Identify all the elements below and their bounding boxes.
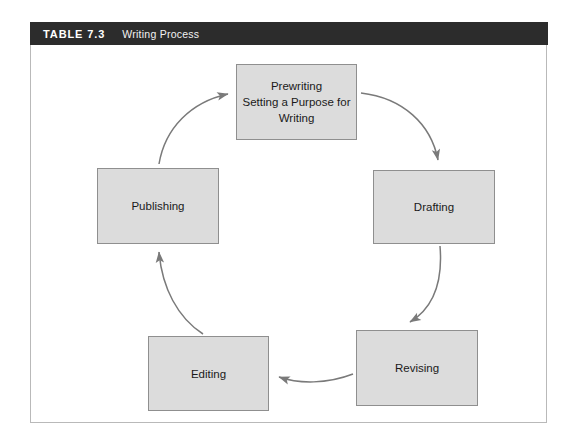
arrow-publishing-to-prewriting — [159, 94, 228, 164]
process-step-revising[interactable]: Revising — [356, 330, 478, 406]
process-step-label: Editing — [187, 366, 230, 382]
process-step-prewriting[interactable]: Prewriting Setting a Purpose for Writing — [236, 64, 357, 140]
arrow-drafting-to-revising — [410, 246, 441, 322]
process-step-label: Drafting — [410, 199, 458, 215]
figure-root: TABLE 7.3 Writing Process Prewriting Set… — [0, 0, 577, 446]
process-step-drafting[interactable]: Drafting — [373, 170, 495, 244]
process-step-label: Revising — [391, 360, 443, 376]
arrow-editing-to-publishing — [159, 252, 203, 334]
arrow-revising-to-editing — [279, 374, 353, 382]
process-step-label: Prewriting Setting a Purpose for Writing — [238, 78, 354, 126]
process-step-publishing[interactable]: Publishing — [97, 168, 219, 244]
process-step-label: Publishing — [127, 198, 188, 214]
table-caption-bar: TABLE 7.3 Writing Process — [30, 22, 548, 45]
process-step-editing[interactable]: Editing — [148, 336, 269, 411]
table-number: TABLE 7.3 — [43, 28, 105, 40]
arrow-prewriting-to-drafting — [361, 93, 438, 160]
table-title: Writing Process — [122, 28, 199, 40]
writing-process-diagram: Prewriting Setting a Purpose for Writing… — [31, 46, 547, 423]
